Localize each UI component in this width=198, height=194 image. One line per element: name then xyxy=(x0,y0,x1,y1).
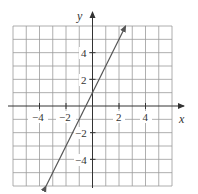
y-tick-label-4: 4 xyxy=(81,47,87,59)
x-tick-label-4: 4 xyxy=(143,111,149,123)
y-tick-label-2: 2 xyxy=(81,74,87,86)
x-tick-label-neg2: −2 xyxy=(59,111,71,123)
x-tick-label-2: 2 xyxy=(116,111,122,123)
y-axis-label: y xyxy=(76,9,83,23)
x-axis-label: x xyxy=(178,112,185,126)
coordinate-plane: −4 −2 2 4 4 2 −2 −4 x y xyxy=(0,0,198,194)
x-tick-label-neg4: −4 xyxy=(32,111,44,123)
y-tick-label-neg2: −2 xyxy=(75,127,87,139)
y-tick-label-neg4: −4 xyxy=(75,154,87,166)
